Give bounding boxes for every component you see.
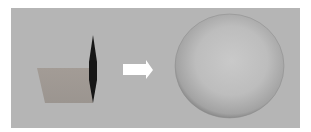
plane-shape: [37, 68, 93, 103]
right-arrow-icon: [123, 60, 153, 79]
diagram-canvas: [0, 0, 311, 132]
sphere-shape: [175, 14, 284, 118]
